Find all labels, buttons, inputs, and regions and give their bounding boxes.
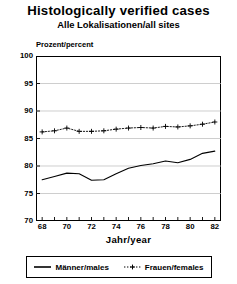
data-point-marker: [40, 129, 45, 134]
x-tick-label: 80: [179, 222, 201, 231]
plot-area: [36, 56, 221, 221]
y-tick-label: 80: [7, 162, 33, 170]
y-tick-label: 90: [7, 107, 33, 115]
chart-title-block: Histologically verified cases Alle Lokal…: [0, 3, 237, 31]
legend-label-males: Männer/males: [55, 263, 108, 272]
x-tick-label: 82: [204, 222, 226, 231]
legend-item-females: Frauen/females: [124, 263, 204, 272]
data-point-marker: [126, 126, 131, 131]
data-point-marker: [77, 129, 82, 134]
chart-figure: Histologically verified cases Alle Lokal…: [0, 0, 237, 284]
x-tick-label: 74: [105, 222, 127, 231]
y-tick-label: 85: [7, 135, 33, 143]
legend-line-dotted-plus-icon: [124, 263, 141, 271]
chart-legend: Männer/males Frauen/females: [26, 256, 212, 278]
data-point-marker: [212, 120, 217, 125]
x-axis-tick-labels: 6870727476788082: [0, 222, 237, 234]
data-point-marker: [200, 122, 205, 127]
x-axis-label: Jahr/year: [36, 234, 221, 245]
y-tick-label: 100: [7, 52, 33, 60]
data-point-marker: [151, 126, 156, 131]
data-point-marker: [64, 126, 69, 131]
y-tick-label: 75: [7, 190, 33, 198]
x-tick-label: 78: [155, 222, 177, 231]
legend-label-females: Frauen/females: [145, 263, 204, 272]
y-axis-label: Prozent/percent: [36, 40, 93, 49]
data-point-marker: [175, 124, 180, 129]
data-point-marker: [163, 124, 168, 129]
data-point-marker: [101, 128, 106, 133]
x-tick-label: 70: [56, 222, 78, 231]
data-point-marker: [89, 129, 94, 134]
y-axis-tick-labels: 707580859095100: [0, 0, 33, 284]
x-tick-label: 76: [130, 222, 152, 231]
legend-line-solid-icon: [34, 263, 51, 271]
y-tick-label: 95: [7, 80, 33, 88]
data-point-marker: [138, 125, 143, 130]
data-point-marker: [114, 127, 119, 132]
legend-item-males: Männer/males: [34, 263, 108, 272]
chart-subtitle: Alle Lokalisationen/all sites: [0, 19, 237, 31]
data-point-marker: [52, 128, 57, 133]
x-tick-label: 68: [31, 222, 53, 231]
page-title: Histologically verified cases: [0, 3, 237, 18]
data-point-marker: [188, 123, 193, 128]
x-tick-label: 72: [81, 222, 103, 231]
